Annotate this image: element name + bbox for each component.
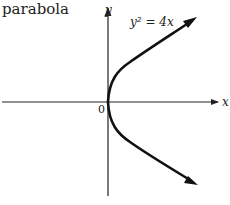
graph: y x 0 y² = 4x [0,0,230,205]
parabola-figure: parabola y x 0 y² = 4x [0,0,230,205]
parabola-lower-branch [108,102,190,180]
x-axis-label: x [222,95,229,109]
y-axis-label: y [104,3,112,17]
parabola-upper-branch [108,22,190,102]
origin-label: 0 [98,103,105,116]
equation-label: y² = 4x [129,15,174,29]
